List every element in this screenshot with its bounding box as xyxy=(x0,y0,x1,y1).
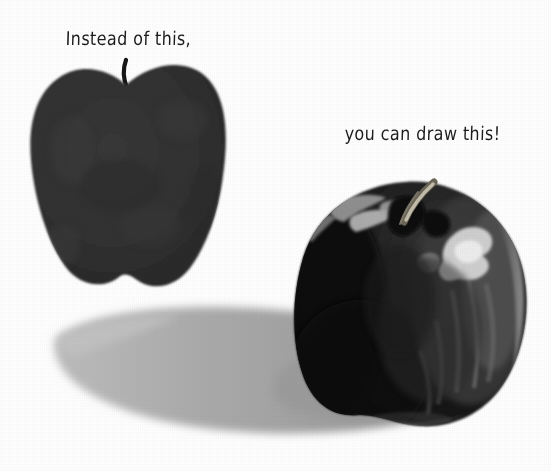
apple-scene-svg xyxy=(0,0,551,471)
caption-you-can-draw-this: you can draw this! xyxy=(344,122,501,144)
caption-instead-of-this: Instead of this, xyxy=(65,27,191,49)
flat-apple xyxy=(30,60,225,286)
illustration-canvas: Instead of this, you can draw this! xyxy=(0,0,551,471)
